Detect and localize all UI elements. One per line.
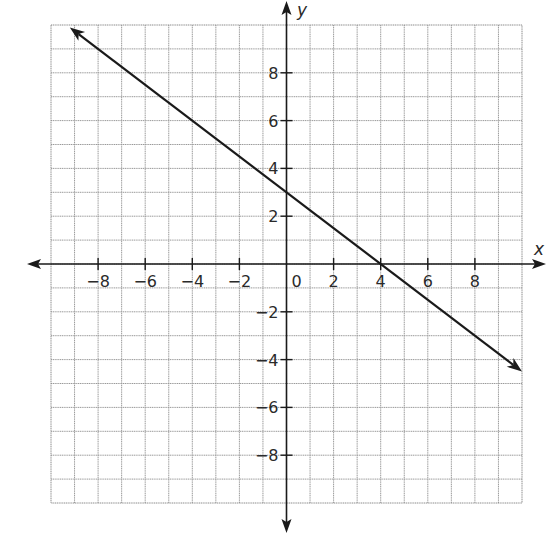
y-tick-label: −6 [255,398,279,417]
x-tick-label: −2 [228,272,252,291]
x-tick-label: 8 [470,272,480,291]
x-tick-label: 6 [423,272,433,291]
x-tick-label: 4 [376,272,386,291]
x-tick-label: 2 [329,272,339,291]
data-series [70,27,522,371]
x-axis-title: x [533,239,545,259]
axes [27,1,546,533]
y-tick-label: −4 [255,351,279,370]
line-end-arrow-icon [507,358,522,371]
line-start-arrow-icon [70,27,85,40]
y-tick-label: 8 [268,64,278,83]
y-tick-label: −8 [255,446,279,465]
y-tick-label: 4 [268,159,278,178]
y-tick-label: −2 [255,303,279,322]
y-tick-label: 6 [268,112,278,131]
y-axis-title: y [296,0,308,20]
x-tick-label: 0 [291,272,301,291]
coordinate-plane: −8−6−4−202468−8−6−4−22468 x y [0,0,553,541]
x-tick-label: −6 [133,272,157,291]
x-tick-label: −4 [181,272,205,291]
data-line [79,34,514,365]
x-tick-label: −8 [86,272,110,291]
y-tick-label: 2 [268,207,278,226]
